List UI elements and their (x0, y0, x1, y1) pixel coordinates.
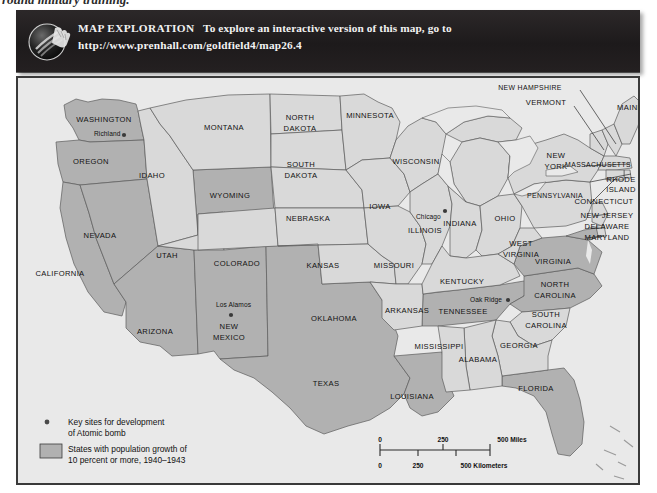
state-label-arkansas: ARKANSAS (385, 306, 429, 315)
state-label-idaho: IDAHO (139, 171, 165, 180)
state-label-mississippi: MISSISSIPPI (414, 342, 463, 351)
legend-site-label-line1: Key sites for development (68, 417, 165, 427)
banner-subtitle: To explore an interactive version of thi… (203, 22, 452, 34)
state-label-new: NEW (220, 322, 239, 331)
city-label-richland: Richland (94, 130, 121, 137)
state-label-new-hampshire: NEW HAMPSHIRE (498, 84, 562, 91)
legend-growth-label-line1: States with population growth of (68, 444, 187, 454)
state-label-south: SOUTH (532, 310, 560, 319)
state-label-maine: MAINE (617, 103, 638, 112)
scale-km-tick-250: 250 (412, 462, 423, 469)
state-label-maryland: MARYLAND (585, 233, 630, 242)
state-label-arizona: ARIZONA (137, 327, 174, 336)
scale-miles-tick-250: 250 (437, 436, 448, 443)
state-label-delaware: DELAWARE (585, 222, 630, 231)
state-label-vermont: VERMONT (526, 98, 566, 107)
state-colorado-body (198, 208, 278, 250)
map-figure-page: round military training. MAP EXPLORATION (0, 0, 657, 493)
state-label-ohio: OHIO (495, 214, 516, 223)
city-dot-richland (122, 133, 126, 137)
scale-miles-tick-500: 500 Miles (497, 436, 527, 443)
state-label-oklahoma: OKLAHOMA (311, 314, 357, 323)
state-label-massachusetts: MASSACHUSETTS (565, 161, 631, 168)
state-label-florida: FLORIDA (518, 384, 554, 393)
state-label-mexico: MEXICO (213, 333, 245, 342)
state-label-colorado: COLORADO (214, 259, 260, 268)
banner-title: MAP EXPLORATION (78, 22, 194, 34)
state-label-new: NEW (547, 151, 566, 160)
state-label-wyoming: WYOMING (210, 191, 250, 200)
state-label-louisiana: LOUISIANA (390, 392, 434, 401)
state-label-indiana: INDIANA (443, 219, 477, 228)
legend-site-dot (45, 420, 50, 425)
state-label-connecticut: CONNECTICUT (574, 197, 633, 206)
state-label-wisconsin: WISCONSIN (392, 157, 439, 166)
state-label-north: NORTH (541, 280, 570, 289)
state-label-west: WEST (509, 239, 532, 248)
map-exploration-banner: MAP EXPLORATION To explore an interactiv… (16, 10, 640, 72)
legend-site-label-line2: of Atomic bomb (68, 428, 126, 438)
state-label-kansas: KANSAS (307, 261, 340, 270)
map-panel: WASHINGTONOREGONIDAHOMONTANAWYOMINGNEVAD… (16, 76, 640, 485)
page-caption-fragment: round military training. (0, 0, 657, 9)
banner-url[interactable]: http://www.prenhall.com/goldfield4/map26… (78, 37, 632, 54)
state-label-virginia: VIRGINIA (503, 250, 540, 259)
state-label-georgia: GEORGIA (500, 341, 538, 350)
state-label-oregon: OREGON (73, 157, 109, 166)
state-label-new-jersey: NEW JERSEY (581, 211, 634, 220)
state-label-minnesota: MINNESOTA (346, 111, 394, 120)
state-label-alabama: ALABAMA (459, 355, 498, 364)
state-label-south: SOUTH (287, 160, 315, 169)
city-label-chicago: Chicago (416, 213, 441, 221)
state-label-carolina: CAROLINA (525, 321, 567, 330)
state-label-california: CALIFORNIA (35, 269, 85, 278)
state-label-texas: TEXAS (313, 379, 340, 388)
banner-text-block: MAP EXPLORATION To explore an interactiv… (78, 20, 632, 53)
us-map-svg: WASHINGTONOREGONIDAHOMONTANAWYOMINGNEVAD… (18, 78, 638, 483)
city-dot-los-alamos (229, 313, 233, 317)
city-label-los-alamos: Los Alamos (216, 301, 252, 308)
state-label-illinois: ILLINOIS (408, 226, 442, 235)
state-label-kentucky: KENTUCKY (440, 277, 484, 286)
state-label-tennessee: TENNESSEE (438, 307, 487, 316)
state-label-virginia: VIRGINIA (535, 257, 572, 266)
hand-globe-icon (24, 17, 72, 65)
state-label-dakota: DAKOTA (285, 171, 318, 180)
scale-km-tick-500: 500 Kilometers (461, 462, 508, 469)
state-label-nebraska: NEBRASKA (286, 214, 331, 223)
state-label-nevada: NEVADA (84, 231, 117, 240)
state-label-iowa: IOWA (369, 202, 391, 211)
state-label-washington: WASHINGTON (76, 115, 131, 124)
city-dot-chicago (443, 209, 447, 213)
state-label-north: NORTH (286, 113, 315, 122)
state-label-carolina: CAROLINA (534, 291, 576, 300)
scale-km-tick-0: 0 (378, 462, 382, 469)
state-label-rhode: RHODE (606, 175, 635, 184)
legend-growth-label-line2: 10 percent or more, 1940–1943 (68, 455, 186, 465)
legend-growth-swatch (40, 444, 62, 458)
city-label-oak-ridge: Oak Ridge (470, 296, 502, 304)
state-label-montana: MONTANA (204, 123, 244, 132)
state-label-utah: UTAH (156, 251, 178, 260)
caption-text: round military training. (2, 0, 130, 8)
state-label-island: ISLAND (606, 185, 636, 194)
state-label-missouri: MISSOURI (374, 261, 414, 270)
state-label-dakota: DAKOTA (284, 124, 317, 133)
scale-miles-tick-0: 0 (378, 436, 382, 443)
city-dot-oak-ridge (506, 298, 510, 302)
state-label-york: YORK (545, 162, 568, 171)
